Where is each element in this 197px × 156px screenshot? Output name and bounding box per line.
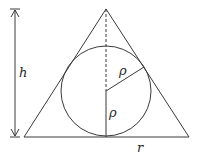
label-base-radius: r	[137, 141, 143, 154]
cone-inscribed-sphere-diagram	[0, 0, 197, 156]
label-sphere-radius-lower: ρ	[109, 106, 117, 119]
diagram-canvas: h r ρ ρ	[0, 0, 197, 156]
label-height: h	[19, 66, 27, 79]
label-sphere-radius-upper: ρ	[119, 64, 127, 77]
